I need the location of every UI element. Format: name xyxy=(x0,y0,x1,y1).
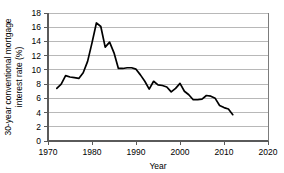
chart-canvas: 18 16 14 12 10 8 6 4 2 0 1970 1980 1990 … xyxy=(0,0,284,173)
y-tick-label: 14 xyxy=(32,36,42,46)
y-tick-label: 2 xyxy=(36,122,41,132)
y-axis-title-line-2: interest rate (%) xyxy=(14,47,24,108)
x-tick-label: 1990 xyxy=(127,147,146,157)
x-axis-title: Year xyxy=(149,161,166,171)
y-tick-label: 16 xyxy=(32,22,42,32)
y-tick-label: 8 xyxy=(36,79,41,89)
y-tick-label: 18 xyxy=(32,8,42,18)
y-tick-label: 10 xyxy=(32,65,42,75)
y-tick-label: 0 xyxy=(36,136,41,146)
x-tick-label: 1980 xyxy=(83,147,102,157)
y-axis-title-line-1: 30-year conventional mortgage xyxy=(3,18,13,135)
mortgage-rate-chart: 18 16 14 12 10 8 6 4 2 0 1970 1980 1990 … xyxy=(0,0,284,173)
y-tick-label: 4 xyxy=(36,108,41,118)
x-tick-label: 1970 xyxy=(39,147,58,157)
y-tick-label: 6 xyxy=(36,93,41,103)
x-tick-label: 2000 xyxy=(171,147,190,157)
y-tick-label: 12 xyxy=(32,51,42,61)
x-tick-label: 2010 xyxy=(215,147,234,157)
x-tick-label: 2020 xyxy=(259,147,278,157)
